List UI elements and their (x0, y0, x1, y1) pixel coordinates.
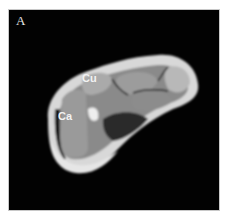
label-calcaneus: Ca (58, 110, 72, 122)
mri-scan-image (8, 9, 220, 211)
label-cuboid: Cu (82, 72, 97, 84)
panel-label: A (16, 13, 25, 29)
